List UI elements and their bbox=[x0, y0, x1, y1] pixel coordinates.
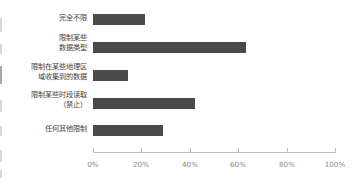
category-label-line: 域收集到的数据 bbox=[31, 72, 87, 82]
x-axis-tick bbox=[141, 148, 142, 153]
category-label: 限制某些 数据类型 bbox=[59, 33, 87, 52]
plot-area: 完全不限 限制某些 数据类型 限制在某些地理区 域收集到的数据 限制某些时段读取 bbox=[0, 0, 355, 182]
category-label-line: 任何其他限制 bbox=[45, 124, 87, 134]
bar-segment bbox=[93, 70, 128, 81]
x-axis-tick-label: 40% bbox=[182, 160, 198, 169]
category-label: 限制某些时段读取 （禁止） bbox=[31, 90, 87, 109]
category-label: 限制在某些地理区 域收集到的数据 bbox=[31, 62, 87, 81]
category-label: 任何其他限制 bbox=[45, 124, 87, 134]
bar-segment bbox=[93, 98, 195, 109]
x-axis-line bbox=[93, 152, 336, 153]
category-label-line: 限制某些时段读取 bbox=[31, 90, 87, 100]
bar-segment bbox=[93, 125, 163, 136]
category-label-line: （禁止） bbox=[31, 100, 87, 110]
category-label-line: 限制在某些地理区 bbox=[31, 62, 87, 72]
x-axis-tick-label: 20% bbox=[133, 160, 149, 169]
category-label-line: 数据类型 bbox=[59, 43, 87, 53]
x-axis-tick bbox=[238, 148, 239, 153]
bar-segment bbox=[93, 14, 145, 25]
x-axis-tick-label: 0% bbox=[87, 160, 98, 169]
category-label-line: 限制某些 bbox=[59, 33, 87, 43]
x-axis-tick-label: 60% bbox=[230, 160, 246, 169]
bar-segment bbox=[93, 42, 246, 53]
x-axis-tick bbox=[93, 148, 94, 153]
x-axis-tick bbox=[190, 148, 191, 153]
bar-chart: 完全不限 限制某些 数据类型 限制在某些地理区 域收集到的数据 限制某些时段读取 bbox=[0, 0, 355, 182]
category-label-line: 完全不限 bbox=[59, 13, 87, 23]
category-label: 完全不限 bbox=[59, 13, 87, 23]
x-axis-tick bbox=[287, 148, 288, 153]
x-axis-tick-label: 100% bbox=[325, 160, 346, 169]
x-axis-tick-label: 80% bbox=[279, 160, 295, 169]
x-axis-tick bbox=[335, 148, 336, 153]
